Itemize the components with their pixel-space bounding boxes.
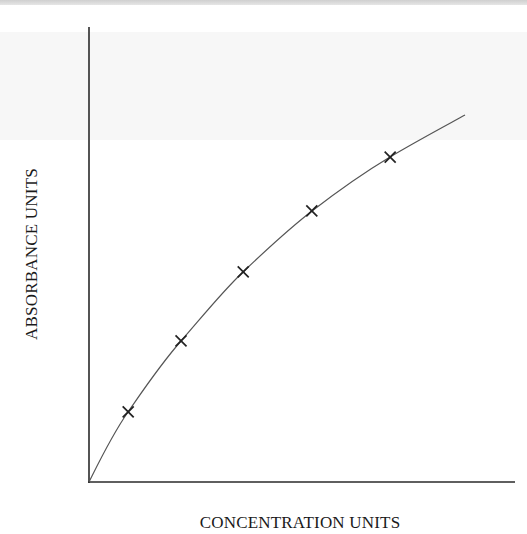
chart-plot <box>0 0 527 534</box>
x-marker-icon <box>385 152 396 163</box>
y-axis-label: ABSORBANCE UNITS <box>22 168 42 340</box>
data-point-markers <box>123 152 396 418</box>
x-marker-icon <box>176 335 187 346</box>
x-marker-icon <box>123 406 134 417</box>
calibration-curve <box>89 115 465 482</box>
x-marker-icon <box>238 266 249 277</box>
x-marker-icon <box>306 205 317 216</box>
x-axis-label: CONCENTRATION UNITS <box>200 513 401 533</box>
